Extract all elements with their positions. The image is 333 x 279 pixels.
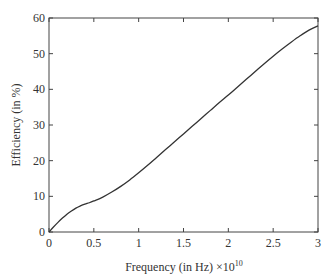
plot-frame (49, 18, 318, 232)
x-axis-exponent: 10 (235, 259, 243, 268)
chart-canvas: 00.511.522.53 0102030405060 Frequency (i… (0, 0, 333, 279)
y-tick-label: 10 (33, 189, 45, 203)
efficiency-line-chart: 00.511.522.53 0102030405060 Frequency (i… (0, 0, 333, 279)
y-tick-label: 40 (33, 82, 45, 96)
x-tick-label: 1 (136, 236, 142, 250)
y-tick-label: 30 (33, 118, 45, 132)
y-tick-label: 60 (33, 11, 45, 25)
y-axis-label: Efficiency (in %) (9, 83, 23, 166)
x-tick-label: 0 (46, 236, 52, 250)
x-tick-label: 2.5 (266, 236, 281, 250)
x-tick-label: 3 (315, 236, 321, 250)
y-axis-ticks: 0102030405060 (33, 11, 318, 239)
x-tick-label: 2 (225, 236, 231, 250)
efficiency-curve (49, 26, 318, 232)
plot-axes (49, 18, 318, 232)
y-tick-label: 20 (33, 154, 45, 168)
x-tick-label: 0.5 (86, 236, 101, 250)
x-axis-label: Frequency (in Hz) ×1010 (125, 259, 243, 274)
y-tick-label: 50 (33, 47, 45, 61)
x-tick-label: 1.5 (176, 236, 191, 250)
y-tick-label: 0 (39, 225, 45, 239)
